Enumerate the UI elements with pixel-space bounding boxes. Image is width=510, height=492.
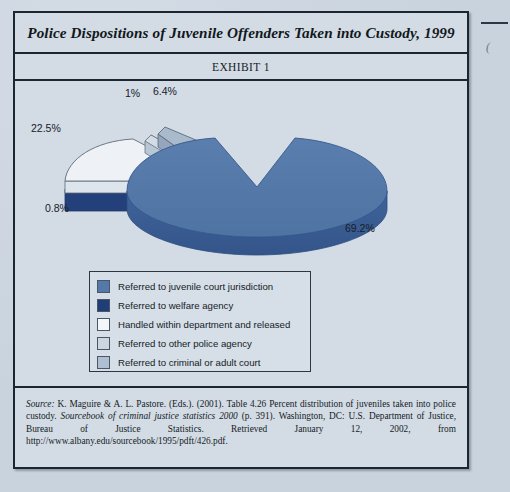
slice-label-adult-court: 6.4%: [153, 85, 177, 97]
legend-item-label: Handled within department and released: [118, 319, 290, 330]
slice-label-other-police: 1%: [125, 87, 140, 99]
legend-swatch-icon: [97, 318, 110, 331]
legend-item-label: Referred to other police agency: [118, 338, 252, 349]
pie-chart-graphic: 6.4% 1% 22.5% 0.8% 69.2%: [15, 81, 467, 261]
legend-item-label: Referred to juvenile court jurisdiction: [118, 281, 273, 292]
slice-label-handled: 22.5%: [31, 122, 61, 134]
exhibit-label-band: EXHIBIT 1: [15, 54, 467, 81]
legend-item-other-police-agency[interactable]: Referred to other police agency: [97, 334, 310, 353]
margin-rule-mark: [481, 22, 508, 24]
source-note: Source: K. Maguire & A. L. Pastore. (Eds…: [15, 388, 467, 447]
legend-item-handled-released[interactable]: Handled within department and released: [97, 315, 310, 334]
slice-label-welfare: 0.8%: [45, 202, 69, 214]
page-background: ( Police Dispositions of Juvenile Offend…: [0, 0, 510, 492]
pie-chart-area: 6.4% 1% 22.5% 0.8% 69.2% Referred to juv…: [15, 81, 467, 388]
chart-legend: Referred to juvenile court jurisdiction …: [89, 271, 311, 372]
legend-item-juvenile-court[interactable]: Referred to juvenile court jurisdiction: [97, 277, 310, 296]
pie-chart-svg: [15, 81, 467, 261]
legend-swatch-icon: [97, 356, 110, 369]
page-title: Police Dispositions of Juvenile Offender…: [27, 24, 455, 42]
slice-label-juvenile-court: 69.2%: [345, 222, 375, 234]
legend-swatch-icon: [97, 337, 110, 350]
legend-item-label: Referred to welfare agency: [118, 300, 233, 311]
legend-swatch-icon: [97, 299, 110, 312]
source-prefix: Source:: [26, 399, 55, 409]
legend-item-welfare-agency[interactable]: Referred to welfare agency: [97, 296, 310, 315]
source-italic-title: Sourcebook of criminal justice statistic…: [61, 411, 238, 421]
exhibit-number-label: EXHIBIT 1: [212, 61, 270, 73]
legend-swatch-icon: [97, 280, 110, 293]
margin-glyph-mark: (: [486, 40, 490, 55]
legend-item-label: Referred to criminal or adult court: [118, 357, 260, 368]
exhibit-title-band: Police Dispositions of Juvenile Offender…: [15, 13, 467, 54]
exhibit-frame: Police Dispositions of Juvenile Offender…: [13, 11, 469, 469]
legend-item-criminal-adult-court[interactable]: Referred to criminal or adult court: [97, 353, 310, 372]
